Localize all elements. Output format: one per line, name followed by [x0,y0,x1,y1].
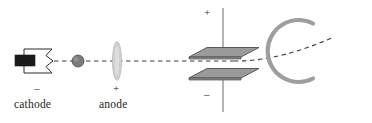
anode-label: anode [99,99,127,111]
deflection-plate-bottom-edge-icon [189,78,241,80]
cathode-label: cathode [14,99,51,111]
deflection-plate-top [189,48,259,58]
diagram-canvas [0,0,372,123]
cathode-charge-sign: – [34,83,40,94]
deflection-plate-bottom-charge-sign: – [204,89,210,100]
anode-disc-core-icon [115,46,119,76]
cathode-ray-tube-diagram: – cathode + anode + – [0,0,372,123]
deflection-plate-bottom [189,69,259,79]
phosphor-screen-arc [268,20,313,82]
electron-particle [72,55,84,67]
deflection-plate-top-charge-sign: + [204,7,210,18]
electron-highlight-icon [73,56,78,61]
cathode-terminal [15,55,35,66]
deflection-plate-top-edge-icon [189,57,241,59]
anode-charge-sign: + [113,83,119,94]
